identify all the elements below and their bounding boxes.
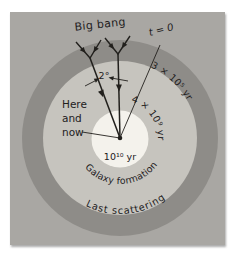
here-label-line1: Here <box>62 98 87 110</box>
universe-age-label: 10¹⁰ yr <box>104 151 136 162</box>
here-label-line2: and <box>62 112 82 124</box>
angle-label: 2° <box>99 70 110 81</box>
cosmology-diagram-panel: 2° Big bang t = 0 Here and now 10¹⁰ yr 3… <box>10 12 225 245</box>
here-label-line3: now <box>62 126 84 138</box>
